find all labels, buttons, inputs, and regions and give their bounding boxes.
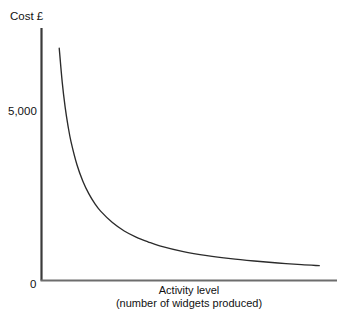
x-axis-title: Activity level (number of widgets produc… xyxy=(41,285,337,310)
y-axis-tick-label-5000: 5,000 xyxy=(8,105,37,117)
y-axis-title: Cost £ xyxy=(10,10,43,22)
cost-per-unit-chart: Cost £ 5,000 0 Activity level (number of… xyxy=(0,0,346,325)
chart-plot-area xyxy=(0,0,346,325)
x-axis-title-line-2: (number of widgets produced) xyxy=(41,298,337,310)
x-axis-title-line-1: Activity level xyxy=(41,285,337,297)
origin-label: 0 xyxy=(30,278,36,290)
cost-curve xyxy=(59,48,319,265)
